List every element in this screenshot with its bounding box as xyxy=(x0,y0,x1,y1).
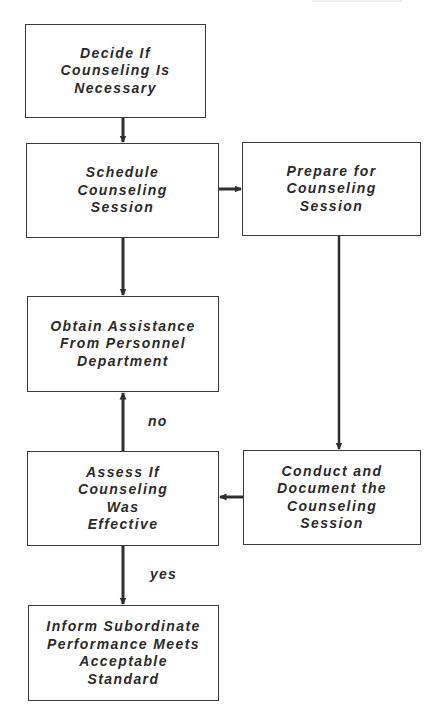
node-schedule-label: Schedule Counseling Session xyxy=(71,164,173,217)
node-conduct: Conduct and Document the Counseling Sess… xyxy=(243,450,421,545)
node-obtain-label: Obtain Assistance From Personnel Departm… xyxy=(44,318,201,371)
node-schedule: Schedule Counseling Session xyxy=(26,143,219,238)
node-prepare-label: Prepare for Counseling Session xyxy=(280,163,382,216)
flowchart-canvas: Decide If Counseling Is Necessary Schedu… xyxy=(0,0,447,723)
node-assess: Assess If Counseling Was Effective xyxy=(27,451,219,546)
edge-label-no: no xyxy=(148,413,168,429)
node-obtain: Obtain Assistance From Personnel Departm… xyxy=(27,296,219,392)
node-decide-label: Decide If Counseling Is Necessary xyxy=(55,45,177,98)
node-decide: Decide If Counseling Is Necessary xyxy=(25,24,206,118)
node-prepare: Prepare for Counseling Session xyxy=(242,142,421,236)
node-assess-label: Assess If Counseling Was Effective xyxy=(72,464,174,534)
node-conduct-label: Conduct and Document the Counseling Sess… xyxy=(271,463,393,533)
node-inform: Inform Subordinate Performance Meets Acc… xyxy=(28,605,219,701)
edge-label-yes: yes xyxy=(150,566,177,582)
node-inform-label: Inform Subordinate Performance Meets Acc… xyxy=(40,618,206,688)
